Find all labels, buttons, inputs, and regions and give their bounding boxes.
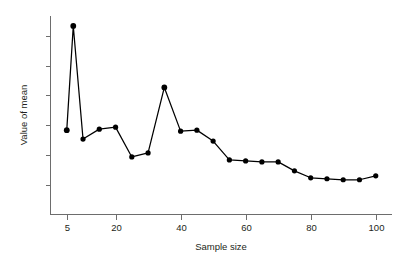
x-tick-label-5: 100 [369, 222, 385, 233]
x-axis-ticks [68, 215, 377, 220]
data-point [64, 127, 70, 133]
x-tick-label-4: 80 [306, 222, 317, 233]
y-axis-ticks [46, 37, 51, 186]
x-axis-title: Sample size [195, 241, 247, 252]
data-point [259, 159, 264, 164]
x-tick-label-0: 5 [65, 222, 70, 233]
data-point [178, 129, 183, 134]
data-point [70, 23, 76, 29]
data-point [227, 157, 232, 162]
data-point [97, 127, 102, 132]
y-axis-title: Value of mean [18, 85, 29, 146]
data-point [243, 158, 248, 163]
series-markers [64, 23, 378, 182]
series-line-value-of-mean [67, 26, 376, 180]
data-point [308, 175, 313, 180]
data-point [80, 136, 85, 141]
data-point [194, 128, 199, 133]
data-point [341, 177, 346, 182]
data-point [373, 173, 378, 178]
data-point [145, 150, 150, 155]
data-point [129, 154, 134, 159]
data-point [211, 138, 216, 143]
chart-page: 520406080100 Sample size Value of mean [0, 0, 414, 273]
x-axis-tick-labels: 520406080100 [65, 222, 385, 233]
data-point [113, 125, 118, 130]
x-tick-label-1: 20 [111, 222, 122, 233]
plot-axes [51, 16, 393, 215]
x-tick-label-3: 60 [241, 222, 252, 233]
data-point [276, 159, 281, 164]
data-point [324, 176, 329, 181]
line-chart: 520406080100 Sample size Value of mean [0, 0, 414, 273]
x-tick-label-2: 40 [176, 222, 187, 233]
data-point [161, 85, 167, 91]
data-point [357, 177, 362, 182]
data-point [292, 168, 297, 173]
